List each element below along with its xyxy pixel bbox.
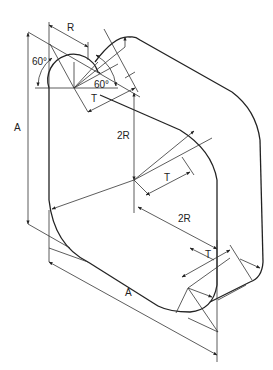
front-right-outline: [88, 95, 217, 312]
label-r: R: [67, 22, 74, 33]
top-outline: [95, 37, 263, 302]
label-a-bottom: A: [125, 287, 132, 298]
label-t-middle: T: [164, 172, 170, 183]
label-a-left: A: [14, 122, 21, 133]
isometric-drawing: R 60° 60° T A 2R T 2R T A: [0, 0, 273, 370]
label-t-bottom: T: [205, 249, 211, 260]
label-2r-diagonal: 2R: [178, 213, 191, 224]
label-angle-right: 60°: [94, 79, 109, 90]
label-angle-left: 60°: [32, 56, 47, 67]
construction-lines: [28, 22, 260, 362]
label-2r-vertical: 2R: [117, 130, 130, 141]
label-t-top: T: [91, 93, 97, 104]
